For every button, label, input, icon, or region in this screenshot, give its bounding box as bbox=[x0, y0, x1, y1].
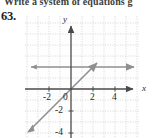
xtick-label-4: 4 bbox=[112, 92, 117, 102]
coordinate-plot: -2 0 2 4 -2 -4 bbox=[25, 16, 140, 138]
x-axis-label: x bbox=[142, 83, 146, 93]
ytick-label-neg4: -4 bbox=[55, 127, 63, 137]
cut-off-instruction-text: Write a system of equations g bbox=[4, 0, 154, 7]
graph-svg bbox=[25, 16, 140, 138]
xtick-label-2: 2 bbox=[90, 92, 95, 102]
horizontal-line-left-arrow bbox=[31, 64, 37, 69]
y-axis-label: y bbox=[63, 14, 67, 24]
xtick-label-0: 0 bbox=[63, 92, 68, 102]
exercise-number: 63. bbox=[1, 9, 16, 24]
figure-container: Write a system of equations g 63. bbox=[0, 0, 154, 138]
ytick-label-neg2: -2 bbox=[55, 105, 63, 115]
xtick-label-neg2: -2 bbox=[43, 92, 51, 102]
